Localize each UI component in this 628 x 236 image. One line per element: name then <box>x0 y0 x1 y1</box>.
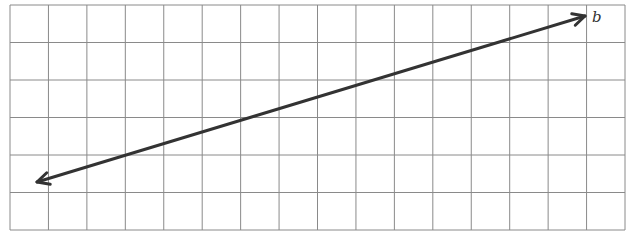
line-b <box>37 14 585 185</box>
grid-lines <box>10 5 625 230</box>
grid <box>0 0 628 236</box>
diagram-canvas: b <box>0 0 628 236</box>
line-label-b: b <box>592 8 602 26</box>
